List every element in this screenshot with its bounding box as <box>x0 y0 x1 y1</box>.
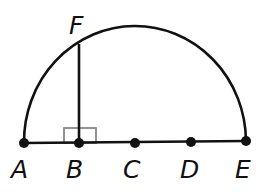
label-b: B <box>66 155 83 184</box>
semicircle-arc <box>24 26 246 143</box>
point-e <box>241 136 251 146</box>
label-c: C <box>123 155 141 184</box>
label-f: F <box>69 11 84 40</box>
point-b <box>74 138 84 148</box>
label-a: A <box>9 155 28 184</box>
point-d <box>186 137 196 147</box>
label-d: D <box>180 155 199 184</box>
point-a <box>19 138 29 148</box>
geometry-diagram: F A B C D E <box>0 0 276 192</box>
label-e: E <box>235 155 251 184</box>
point-c <box>130 138 140 148</box>
